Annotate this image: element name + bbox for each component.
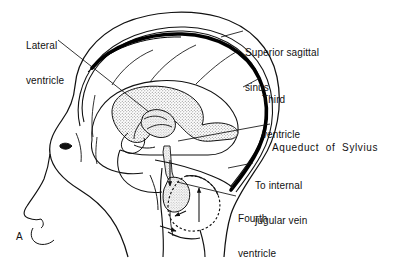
forehead-nose-profile	[24, 154, 50, 220]
sulcus-3	[196, 52, 236, 84]
eye-marking	[60, 143, 72, 149]
temporal-lobe-outline	[118, 150, 162, 193]
label-third-ventricle-line-1: Third	[262, 94, 300, 106]
leader-superior-sagittal-sinus	[221, 31, 243, 37]
sulcus-2	[150, 45, 196, 82]
brainstem-anterior	[161, 168, 164, 257]
label-lateral-ventricle-line-2: ventricle	[26, 75, 64, 87]
label-aqueduct-of-sylvius-line-1: Aqueduct of Sylvius	[272, 142, 378, 154]
brainstem-group	[150, 160, 233, 257]
label-lateral-ventricle-line-1: Lateral	[26, 40, 64, 52]
brainstem-posterior	[200, 230, 205, 257]
optic-chiasm-loop	[134, 145, 155, 148]
central-canal	[170, 210, 173, 236]
sulcus-1	[112, 50, 153, 85]
label-fourth-ventricle-line-1: Fourth	[238, 213, 276, 225]
anatomical-figure: Lateral ventricle Superior sagittal sinu…	[0, 0, 395, 259]
panel-letter: A	[16, 231, 23, 242]
label-superior-sagittal-sinus-line-1: Superior sagittal	[245, 47, 319, 59]
lateral-ventricle-body	[112, 86, 238, 142]
fourth-ventricle-chamber	[163, 177, 190, 212]
label-fourth-ventricle: Fourth ventricle	[238, 190, 276, 259]
nostril-line	[41, 219, 43, 228]
sulcus-4	[92, 95, 95, 137]
brow-cheek-line	[76, 133, 81, 162]
upper-lip	[31, 228, 54, 244]
label-lateral-ventricle: Lateral ventricle	[26, 17, 64, 109]
facial-profile-group	[24, 133, 81, 244]
label-fourth-ventricle-line-2: ventricle	[238, 248, 276, 259]
